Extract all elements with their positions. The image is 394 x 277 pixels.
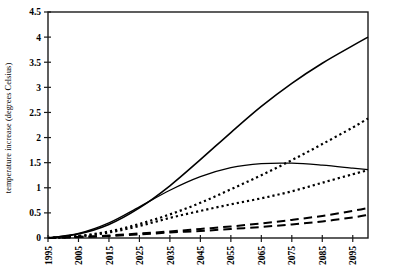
plot-frame bbox=[48, 12, 368, 238]
y-tick-label: 3.5 bbox=[29, 58, 41, 68]
y-tick-label: 3 bbox=[36, 83, 41, 93]
x-tick-label: 2025 bbox=[135, 246, 145, 265]
x-axis-ticks: 1995200520152025203520452055206520752085… bbox=[44, 235, 359, 265]
y-tick-label: 1.5 bbox=[29, 158, 41, 168]
x-tick-label: 2055 bbox=[226, 246, 236, 265]
y-tick-label: 1 bbox=[36, 183, 41, 193]
series-line-1 bbox=[48, 163, 368, 238]
y-axis-title-text: temperature increase (degrees Celsius) bbox=[4, 63, 13, 194]
y-tick-label: 2.5 bbox=[29, 108, 41, 118]
x-tick-label: 2065 bbox=[257, 246, 267, 265]
temperature-projection-line-chart: temperature increase (degrees Celsius) 0… bbox=[0, 0, 394, 277]
x-tick-label: 2075 bbox=[287, 246, 297, 265]
y-tick-label: 0 bbox=[36, 233, 41, 243]
x-tick-label: 1995 bbox=[44, 246, 54, 265]
x-tick-label: 2095 bbox=[348, 246, 358, 265]
plot-border bbox=[48, 12, 368, 238]
y-tick-label: 4.5 bbox=[29, 7, 41, 17]
x-tick-label: 2035 bbox=[166, 246, 176, 265]
data-series-group bbox=[48, 37, 368, 238]
series-line-2 bbox=[48, 118, 368, 238]
chart-figure: temperature increase (degrees Celsius) 0… bbox=[0, 0, 394, 277]
y-axis-title: temperature increase (degrees Celsius) bbox=[4, 63, 13, 194]
y-tick-label: 2 bbox=[36, 133, 41, 143]
x-tick-label: 2015 bbox=[105, 246, 115, 265]
y-tick-label: 4 bbox=[36, 33, 41, 43]
x-tick-label: 2005 bbox=[74, 246, 84, 265]
y-tick-label: 0.5 bbox=[29, 208, 41, 218]
x-tick-label: 2085 bbox=[318, 246, 328, 265]
series-line-0 bbox=[48, 37, 368, 238]
x-tick-label: 2045 bbox=[196, 246, 206, 265]
